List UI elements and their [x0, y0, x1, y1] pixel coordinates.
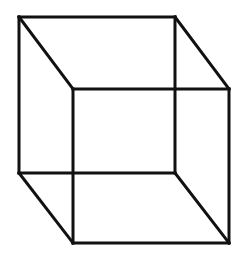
cube-edge-back-top-right-to-front-top-right: [175, 17, 229, 89]
cube-edges: [19, 17, 229, 243]
cube-edge-back-top-left-to-front-top-left: [19, 17, 73, 89]
cube-edge-back-bottom-right-to-front-bottom-right: [175, 173, 229, 243]
cube-wireframe: [0, 0, 246, 266]
cube-edge-back-bottom-left-to-front-bottom-left: [19, 173, 73, 243]
necker-cube-diagram: [0, 0, 246, 266]
